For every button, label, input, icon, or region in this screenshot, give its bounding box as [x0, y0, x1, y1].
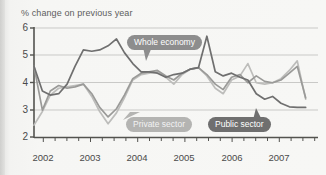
series-line-private-sector	[34, 61, 306, 125]
x-tick-label-2002: 2002	[23, 152, 63, 163]
y-tick-label-3: 3	[14, 104, 28, 115]
y-tick-label-5: 5	[14, 49, 28, 60]
legend-callout-public-sector[interactable]: Public sector	[208, 117, 271, 132]
x-tick-label-2003: 2003	[70, 152, 110, 163]
series-line-whole-economy	[34, 66, 306, 117]
y-tick-label-2: 2	[14, 131, 28, 142]
y-tick-label-4: 4	[14, 77, 28, 88]
x-tick-label-2005: 2005	[164, 152, 204, 163]
legend-callout-private-sector[interactable]: Private sector	[126, 117, 192, 132]
x-tick-label-2004: 2004	[117, 152, 157, 163]
legend-callout-whole-economy[interactable]: Whole economy	[127, 35, 202, 50]
chart-screenshot: % change on previous year	[0, 0, 326, 175]
chart-plot-area	[0, 0, 326, 175]
y-tick-label-6: 6	[14, 22, 28, 33]
x-tick-label-2007: 2007	[259, 152, 299, 163]
x-tick-label-2006: 2006	[212, 152, 252, 163]
